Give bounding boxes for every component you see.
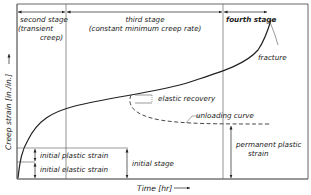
second-stage-sub1: (transient xyxy=(18,24,54,33)
y-axis-label: Creep strain [in./in.] xyxy=(4,74,13,150)
elastic-recovery-marker xyxy=(135,95,152,103)
second-stage-sub2: creep) xyxy=(40,33,63,42)
fracture-label: fracture xyxy=(258,53,287,62)
initial-plastic-strain-label: initial plastic strain xyxy=(40,151,109,160)
diagram-canvas: second stage (transient creep) third sta… xyxy=(0,0,311,195)
third-stage-sub: (constant minimum creep rate) xyxy=(89,24,202,33)
initial-elastic-strain-label: initial elastic strain xyxy=(40,165,109,174)
fourth-stage-label: fourth stage xyxy=(226,15,276,24)
permanent-plastic-strain-label-2: strain xyxy=(248,149,269,158)
creep-curve-diagram: second stage (transient creep) third sta… xyxy=(0,0,311,195)
x-axis-label: Time [hr] xyxy=(137,184,172,193)
third-stage-label: third stage xyxy=(125,15,165,24)
initial-stage-label: initial stage xyxy=(132,159,175,168)
second-stage-label: second stage xyxy=(20,15,68,24)
elastic-recovery-label: elastic recovery xyxy=(158,94,216,103)
unloading-curve-label: unloading curve xyxy=(196,111,255,120)
permanent-plastic-strain-label: permanent plastic xyxy=(235,140,302,149)
fracture-leader xyxy=(270,22,278,45)
